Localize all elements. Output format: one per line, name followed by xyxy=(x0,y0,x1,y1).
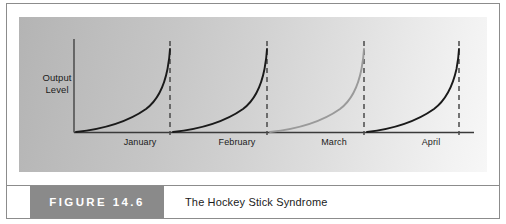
figure-block: Output Level January February March Apri… xyxy=(0,0,506,224)
figure-number-box: FIGURE 14.6 xyxy=(30,186,164,218)
figure-caption-bar: FIGURE 14.6 The Hockey Stick Syndrome xyxy=(6,185,500,219)
y-axis-title-line-2: Level xyxy=(33,84,81,96)
curve-february xyxy=(173,49,267,132)
curve-april xyxy=(367,49,459,132)
figure-caption-text: The Hockey Stick Syndrome xyxy=(164,186,499,218)
hockey-stick-chart xyxy=(19,17,487,172)
figure-number-label: FIGURE 14.6 xyxy=(49,196,144,208)
curve-march xyxy=(270,49,364,132)
x-axis-label-march: March xyxy=(321,137,347,147)
x-axis-label-january: January xyxy=(124,137,157,147)
curve-january xyxy=(76,49,170,132)
y-axis-title: Output Level xyxy=(33,72,81,96)
period-divider-group xyxy=(170,41,459,135)
chart-panel: Output Level January February March Apri… xyxy=(19,17,487,172)
y-axis-title-line-1: Output xyxy=(33,72,81,84)
x-axis-label-february: February xyxy=(219,137,256,147)
x-axis-label-april: April xyxy=(422,137,441,147)
caption-left-gap xyxy=(7,186,30,218)
